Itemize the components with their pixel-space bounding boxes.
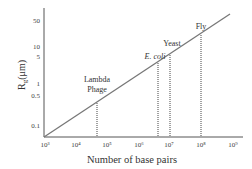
y-tick-50: 50 xyxy=(33,17,41,25)
x-tick-1e8: 10⁸ xyxy=(196,141,206,149)
annotation-yeast: Yeast xyxy=(163,39,181,48)
y-tick-10: 10 xyxy=(33,43,41,51)
y-tick-0.5: 0.5 xyxy=(31,92,40,100)
annotation-ecoli: E. coli xyxy=(144,52,166,61)
y-tick-0.1: 0.1 xyxy=(31,122,40,130)
svg-text:Rg(μm): Rg(μm) xyxy=(16,60,29,90)
y-tick-5: 5 xyxy=(37,53,41,61)
chart: 50 10 5 1 0.5 0.1 10³ 10⁴ 10⁵ 10⁶ 10⁷ 10… xyxy=(0,0,252,169)
x-tick-1e9: 10⁹ xyxy=(228,141,238,149)
y-tick-1: 1 xyxy=(37,80,41,88)
x-tick-1e4: 10⁴ xyxy=(71,141,81,149)
series-line xyxy=(44,14,230,137)
x-tick-1e3: 10³ xyxy=(40,141,49,149)
x-tick-1e6: 10⁶ xyxy=(134,141,144,149)
x-axis-label: Number of base pairs xyxy=(87,154,177,165)
x-tick-1e5: 10⁵ xyxy=(102,141,112,149)
y-label-unit: (μm) xyxy=(16,60,28,80)
annotation-lambda: Lambda xyxy=(84,75,111,84)
x-tick-1e7: 10⁷ xyxy=(164,141,174,149)
annotation-fly: Fly xyxy=(196,22,207,31)
annotation-phage: Phage xyxy=(87,85,107,94)
y-axis-label: Rg(μm) xyxy=(16,60,29,90)
